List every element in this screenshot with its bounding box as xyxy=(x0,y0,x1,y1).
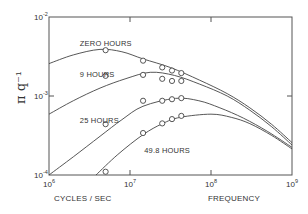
series-label-9-hours: 9 HOURS xyxy=(80,70,115,79)
data-point-9-hours xyxy=(169,78,174,83)
chart: 10610710810910-210-310-4 ZERO HOURS9 HOU… xyxy=(0,0,308,214)
x-tick-label: 107 xyxy=(124,178,136,189)
data-points xyxy=(103,48,184,175)
data-point-zero-hours xyxy=(179,70,184,75)
data-point-zero-hours xyxy=(103,48,108,53)
series-label-zero-hours: ZERO HOURS xyxy=(80,39,132,48)
series-label-25-hours: 25 HOURS xyxy=(80,116,119,125)
series-line-25-hours xyxy=(49,98,292,175)
series-label-49-8-hours: 49.8 HOURS xyxy=(144,146,190,155)
series-line-49-8-hours xyxy=(96,114,292,175)
data-point-49-8-hours xyxy=(140,130,145,135)
data-point-49-8-hours xyxy=(169,117,174,122)
x-axis-label-frequency: FREQUENCY xyxy=(208,194,260,203)
data-point-25-hours xyxy=(160,98,165,103)
series-line-zero-hours xyxy=(49,49,292,142)
data-point-49-8-hours xyxy=(179,113,184,118)
data-point-9-hours xyxy=(160,76,165,81)
data-point-25-hours xyxy=(169,97,174,102)
x-tick-label: 109 xyxy=(286,178,298,189)
data-point-25-hours xyxy=(140,98,145,103)
x-tick-label: 106 xyxy=(43,178,55,189)
data-point-49-8-hours xyxy=(160,121,165,126)
x-axis-label: CYCLES / SEC xyxy=(54,194,112,203)
data-point-49-8-hours xyxy=(103,169,108,174)
data-point-zero-hours xyxy=(169,68,174,73)
y-tick-label: 10-2 xyxy=(34,11,48,22)
y-tick-label: 10-3 xyxy=(34,90,48,101)
y-axis-label: π q⁻¹ xyxy=(13,71,28,104)
data-point-9-hours xyxy=(140,72,145,77)
y-tick-label: 10-4 xyxy=(34,169,48,180)
data-point-9-hours xyxy=(179,78,184,83)
data-point-zero-hours xyxy=(160,65,165,70)
x-tick-label: 108 xyxy=(205,178,217,189)
data-point-25-hours xyxy=(179,96,184,101)
data-point-zero-hours xyxy=(140,58,145,63)
